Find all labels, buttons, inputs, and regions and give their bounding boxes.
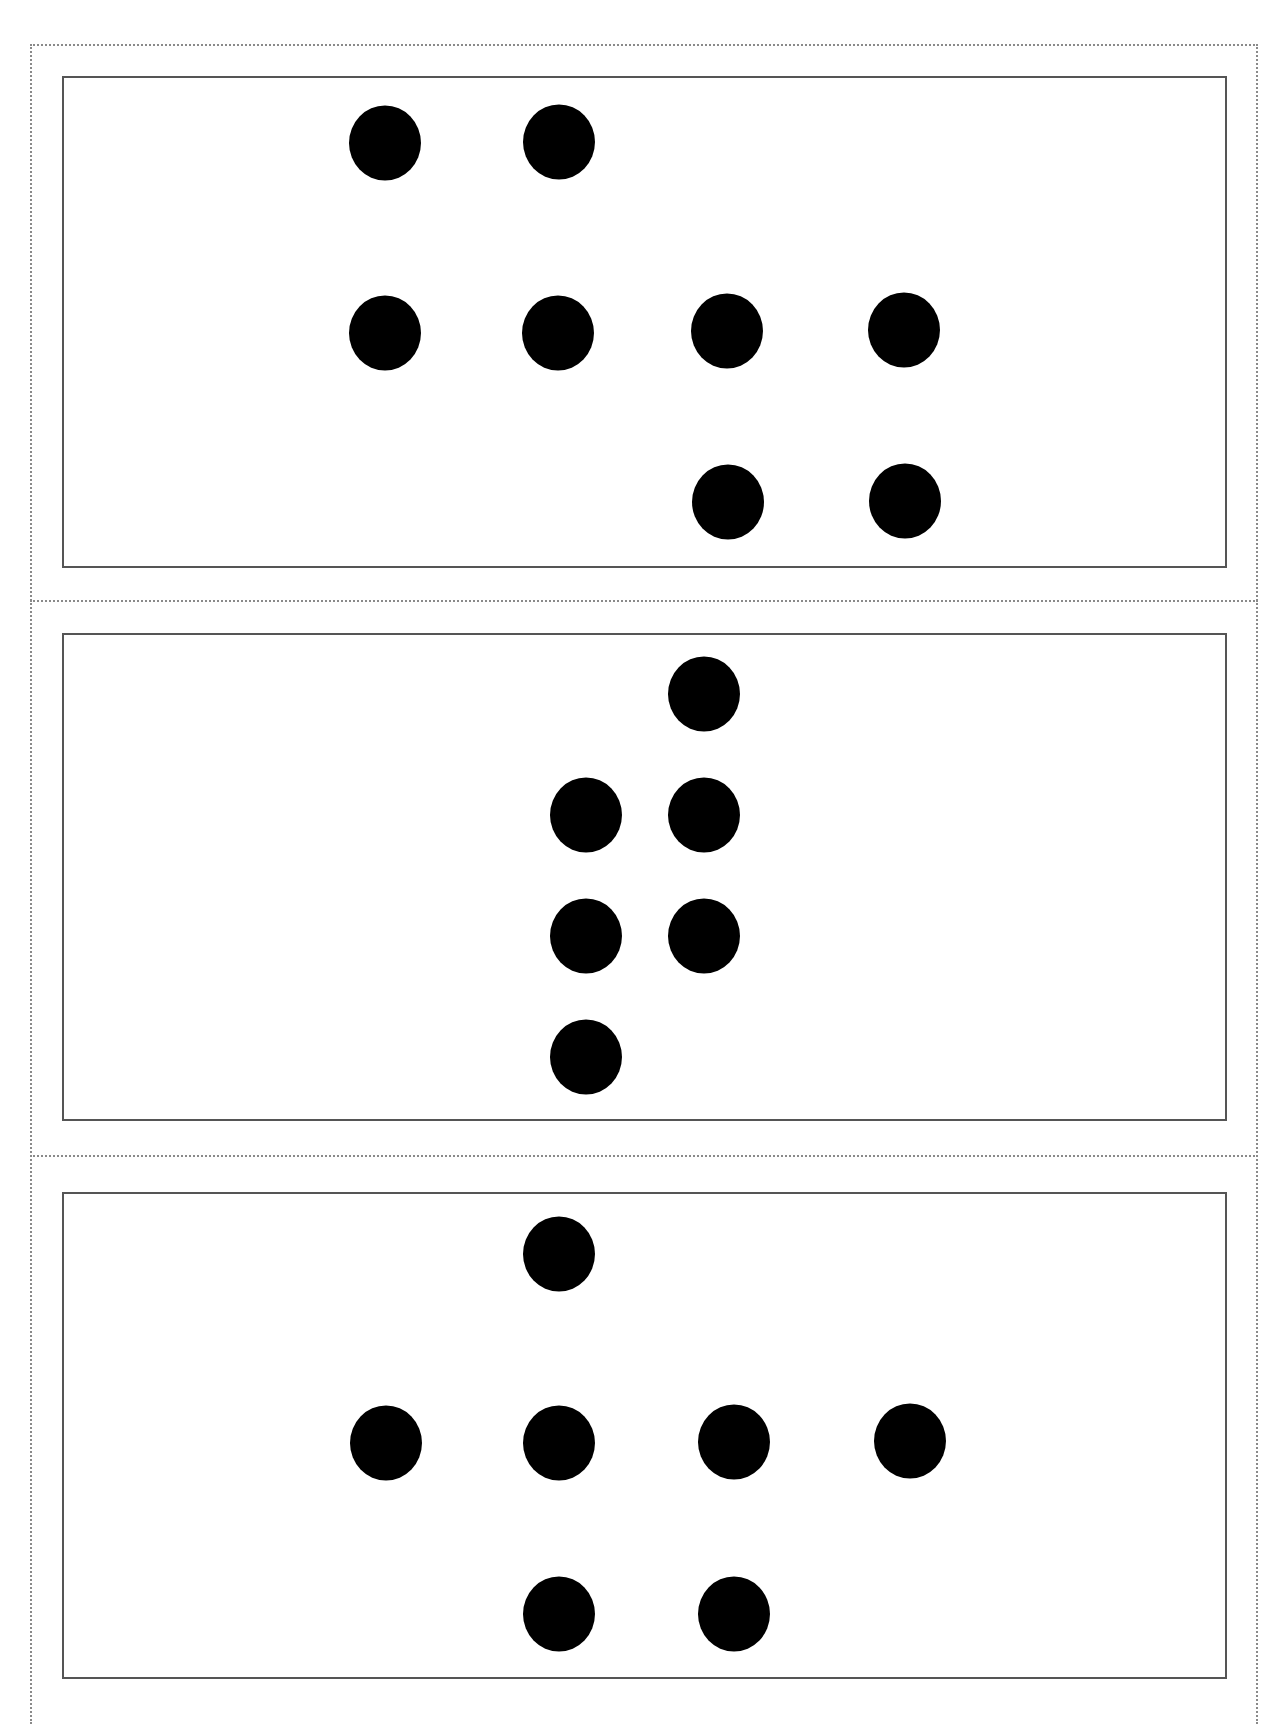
dot-icon: [523, 105, 595, 180]
cut-line-separator: [30, 600, 1258, 602]
dot-card: 8: [62, 76, 1227, 568]
dot-card: 6: [62, 633, 1227, 1121]
dot-icon: [550, 899, 622, 974]
dot-icon: [668, 778, 740, 853]
dot-icon: [350, 1406, 422, 1481]
dot-icon: [349, 106, 421, 181]
dot-icon: [523, 1406, 595, 1481]
dot-icon: [522, 296, 594, 371]
dot-icon: [550, 1020, 622, 1095]
dot-count-label: 7: [64, 1194, 65, 1195]
dot-icon: [869, 464, 941, 539]
dot-icon: [523, 1217, 595, 1292]
dot-icon: [868, 293, 940, 368]
dot-icon: [349, 296, 421, 371]
dot-card: 7: [62, 1192, 1227, 1679]
cut-line-separator: [30, 1155, 1258, 1157]
dot-icon: [874, 1404, 946, 1479]
dot-count-label: 6: [64, 635, 65, 636]
dot-icon: [550, 778, 622, 853]
dot-icon: [691, 294, 763, 369]
dot-icon: [698, 1577, 770, 1652]
dot-icon: [523, 1577, 595, 1652]
dot-count-label: 8: [64, 78, 65, 79]
dot-icon: [668, 657, 740, 732]
dot-icon: [692, 465, 764, 540]
dot-icon: [698, 1405, 770, 1480]
dot-icon: [668, 899, 740, 974]
